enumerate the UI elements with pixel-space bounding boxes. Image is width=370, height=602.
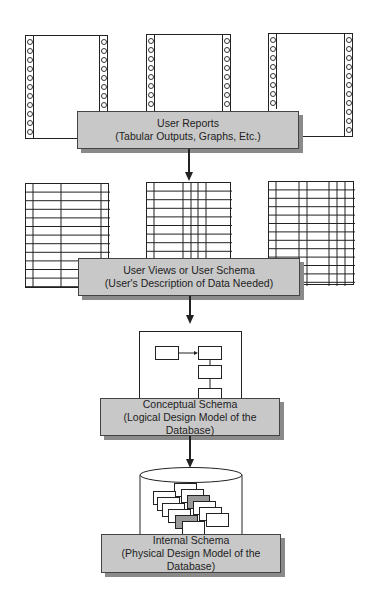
connector-line-1 (188, 149, 190, 173)
tractor-hole-icon (148, 74, 154, 80)
tractor-hole-icon (270, 82, 276, 88)
entity-box-1 (156, 347, 179, 360)
report-page-2 (146, 34, 231, 114)
tractor-strip-right (222, 35, 231, 113)
tractor-hole-icon (224, 101, 230, 107)
user-reports-box: User Reports (Tabular Outputs, Graphs, E… (77, 111, 299, 149)
user-reports-title: User Reports (78, 117, 298, 130)
user-views-title: User Views or User Schema (79, 264, 299, 277)
arrow-down-icon (185, 172, 193, 181)
conceptual-schema-subtitle: (Logical Design Model of the Database) (101, 411, 279, 437)
tractor-strip-left (268, 34, 277, 109)
entity-box-3 (199, 366, 222, 379)
tractor-hole-icon (101, 93, 107, 99)
tractor-strip-right (99, 36, 108, 111)
tractor-hole-icon (346, 127, 352, 133)
tractor-hole-icon (27, 57, 33, 63)
tractor-hole-icon (270, 100, 276, 106)
tractor-hole-icon (101, 48, 107, 54)
conceptual-model-diagram (139, 331, 243, 401)
tractor-hole-icon (101, 57, 107, 63)
user-reports-subtitle: (Tabular Outputs, Graphs, Etc.) (78, 130, 298, 143)
tractor-hole-icon (148, 38, 154, 44)
tractor-hole-icon (224, 38, 230, 44)
tractor-hole-icon (27, 39, 33, 45)
tractor-hole-icon (27, 120, 33, 126)
tractor-hole-icon (224, 56, 230, 62)
tractor-hole-icon (224, 74, 230, 80)
file-card (183, 522, 205, 535)
tractor-hole-icon (148, 101, 154, 107)
tractor-hole-icon (270, 55, 276, 61)
tractor-hole-icon (101, 75, 107, 81)
tractor-hole-icon (148, 92, 154, 98)
tractor-hole-icon (27, 75, 33, 81)
connector-line-3 (189, 436, 191, 460)
tractor-hole-icon (346, 37, 352, 43)
internal-schema-title: Internal Schema (102, 534, 280, 547)
tractor-hole-icon (224, 47, 230, 53)
conceptual-schema-title: Conceptual Schema (101, 398, 279, 411)
tractor-hole-icon (101, 84, 107, 90)
tractor-hole-icon (346, 46, 352, 52)
user-view-table-2 (146, 182, 232, 262)
entity-box-2 (199, 347, 222, 360)
tractor-hole-icon (346, 82, 352, 88)
tractor-hole-icon (148, 65, 154, 71)
tractor-hole-icon (346, 100, 352, 106)
tractor-hole-icon (27, 48, 33, 54)
database-cylinder-icon (138, 466, 244, 536)
tractor-hole-icon (148, 47, 154, 53)
tractor-hole-icon (27, 129, 33, 135)
tractor-hole-icon (224, 65, 230, 71)
tractor-hole-icon (346, 73, 352, 79)
tractor-hole-icon (270, 91, 276, 97)
tractor-hole-icon (224, 92, 230, 98)
tractor-hole-icon (148, 56, 154, 62)
tractor-hole-icon (346, 64, 352, 70)
tractor-hole-icon (27, 111, 33, 117)
conceptual-schema-box: Conceptual Schema (Logical Design Model … (100, 398, 280, 436)
user-views-box: User Views or User Schema (User's Descri… (78, 258, 300, 296)
tractor-hole-icon (101, 102, 107, 108)
tractor-hole-icon (27, 84, 33, 90)
tractor-hole-icon (101, 39, 107, 45)
tractor-hole-icon (224, 83, 230, 89)
tractor-hole-icon (27, 66, 33, 72)
tractor-strip-left (146, 35, 155, 113)
user-views-subtitle: (User's Description of Data Needed) (79, 277, 299, 290)
tractor-hole-icon (270, 46, 276, 52)
file-card (207, 514, 229, 527)
internal-schema-subtitle: (Physical Design Model of the Database) (102, 547, 280, 573)
connector-line-2 (189, 296, 191, 316)
internal-schema-box: Internal Schema (Physical Design Model o… (101, 534, 281, 573)
tractor-hole-icon (148, 83, 154, 89)
tractor-hole-icon (346, 118, 352, 124)
tractor-hole-icon (27, 93, 33, 99)
arrow-down-icon (186, 315, 194, 324)
tractor-hole-icon (270, 73, 276, 79)
tractor-strip-left (25, 36, 34, 138)
tractor-hole-icon (346, 91, 352, 97)
tractor-hole-icon (346, 55, 352, 61)
tractor-hole-icon (101, 66, 107, 72)
tractor-hole-icon (270, 64, 276, 70)
tractor-hole-icon (270, 37, 276, 43)
tractor-hole-icon (27, 102, 33, 108)
tractor-hole-icon (346, 109, 352, 115)
tractor-strip-right (344, 34, 353, 136)
